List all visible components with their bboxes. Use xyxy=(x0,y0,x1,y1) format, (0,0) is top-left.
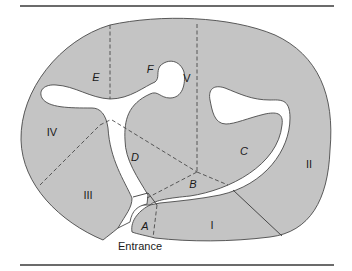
region-label-II: II xyxy=(306,158,312,170)
entrance-label: Entrance xyxy=(118,240,162,252)
region-label-III: III xyxy=(83,189,92,201)
region-label-V: V xyxy=(183,72,191,84)
region-label-B: B xyxy=(189,178,196,190)
region-label-C: C xyxy=(240,145,248,157)
region-label-IV: IV xyxy=(47,126,58,138)
region-label-D: D xyxy=(131,151,139,163)
region-label-I: I xyxy=(210,219,213,231)
region-label-E: E xyxy=(92,71,100,83)
cave-diagram: I II III IV V A B C D E F Entrance xyxy=(0,0,352,271)
region-label-A: A xyxy=(140,220,148,232)
